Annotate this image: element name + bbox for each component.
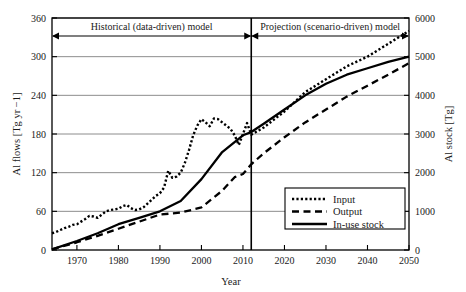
y-tick-label: 240 <box>31 90 46 101</box>
legend[interactable]: InputOutputIn-use stock <box>285 188 405 230</box>
y-tick-label: 60 <box>36 206 46 217</box>
y2-tick-label: 4000 <box>415 90 435 101</box>
x-tick-label: 1980 <box>108 255 128 266</box>
y-tick-label: 360 <box>31 13 46 24</box>
legend-label: Input <box>333 194 355 205</box>
span-label: Historical (data-driven) model <box>91 21 213 33</box>
y-tick-label: 120 <box>31 167 46 178</box>
y2-tick-label: 3000 <box>415 129 435 140</box>
y-tick-label: 0 <box>41 245 46 256</box>
x-tick-label: 1990 <box>150 255 170 266</box>
legend-label: In-use stock <box>333 219 385 230</box>
x-tick-label: 2020 <box>274 255 294 266</box>
chart-background <box>0 0 466 292</box>
x-axis-label: Year <box>221 276 241 287</box>
figure-container: 197019801990200020102020203020402050 060… <box>0 0 466 292</box>
x-tick-label: 2000 <box>191 255 211 266</box>
y2-tick-label: 0 <box>415 245 420 256</box>
span-label: Projection (scenario-driven) model <box>260 21 400 33</box>
x-tick-label: 2050 <box>399 255 419 266</box>
y2-axis-label: Al stock [Tg] <box>443 106 454 163</box>
y-tick-label: 300 <box>31 51 46 62</box>
x-tick-label: 1970 <box>67 255 87 266</box>
x-tick-label: 2010 <box>233 255 253 266</box>
x-tick-label: 2040 <box>357 255 377 266</box>
y2-tick-label: 5000 <box>415 51 435 62</box>
y-axis-label: Al flows [Tg yr −1] <box>11 93 22 176</box>
y2-tick-label: 1000 <box>415 206 435 217</box>
y2-tick-label: 6000 <box>415 13 435 24</box>
y-tick-label: 180 <box>31 129 46 140</box>
legend-label: Output <box>333 206 362 217</box>
x-tick-label: 2030 <box>316 255 336 266</box>
al-flows-stock-chart: 197019801990200020102020203020402050 060… <box>0 0 466 292</box>
y2-tick-label: 2000 <box>415 167 435 178</box>
